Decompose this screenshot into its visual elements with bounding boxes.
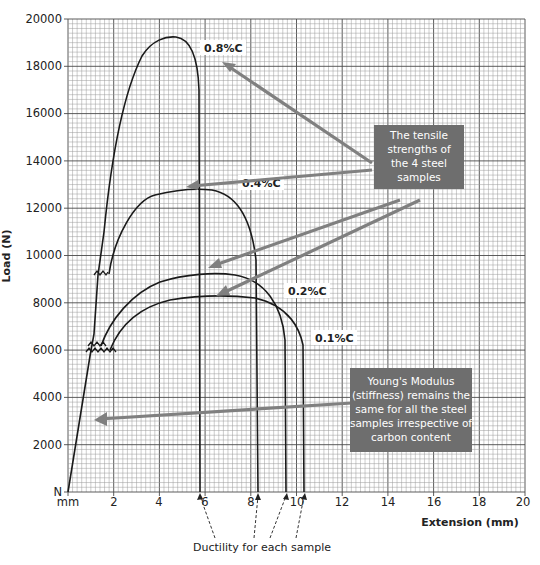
- arrowhead-icon: [283, 493, 289, 500]
- tensile-note-line-2: strengths of: [387, 143, 450, 155]
- tensile-note-line-4: samples: [397, 171, 441, 183]
- x-tick-16: 16: [427, 495, 442, 509]
- youngs-modulus-annotation: Young's Modulus (stiffness) remains the …: [94, 368, 472, 452]
- y-tick-12000: 12000: [25, 201, 62, 215]
- tensile-note-line-1: The tensile: [389, 129, 448, 141]
- y-axis-title: Load (N): [0, 230, 13, 283]
- y-tick-20000: 20000: [25, 12, 62, 26]
- x-tick-4: 4: [155, 495, 162, 509]
- y-tick-8000: 8000: [33, 296, 62, 310]
- modulus-note-line-4: samples irrespective of: [350, 417, 472, 429]
- modulus-arrow: [100, 403, 352, 419]
- label-0-8-percent-carbon: 0.8%C: [204, 42, 243, 55]
- arrowhead-icon: [186, 180, 198, 190]
- curve-0-1-percent-carbon: [110, 296, 304, 492]
- label-0-2-percent-carbon: 0.2%C: [288, 285, 327, 298]
- y-tick-18000: 18000: [25, 59, 62, 73]
- x-origin-unit: mm: [57, 495, 79, 509]
- modulus-note-line-1: Young's Modulus: [367, 375, 455, 387]
- label-0-1-percent-carbon: 0.1%C: [315, 332, 354, 345]
- tensile-note-line-3: the 4 steel: [391, 157, 447, 169]
- y-tick-6000: 6000: [33, 343, 62, 357]
- y-tick-10000: 10000: [25, 248, 62, 262]
- x-tick-6: 6: [201, 495, 208, 509]
- y-tick-16000: 16000: [25, 106, 62, 120]
- x-tick-18: 18: [472, 495, 487, 509]
- modulus-note-line-3: same for all the steel: [355, 403, 466, 415]
- x-tick-14: 14: [381, 495, 396, 509]
- arrowhead-icon: [94, 412, 107, 426]
- tensile-test-chart: 20000 18000 16000 14000 12000 10000 8000…: [0, 0, 540, 565]
- elastic-line: [68, 232, 104, 492]
- x-tick-2: 2: [110, 495, 117, 509]
- modulus-note-line-5: carbon content: [371, 431, 451, 443]
- arrowhead-icon: [208, 258, 222, 268]
- x-tick-12: 12: [335, 495, 350, 509]
- y-axis-tick-labels: 20000 18000 16000 14000 12000 10000 8000…: [25, 12, 62, 499]
- arrowhead-icon: [255, 493, 261, 500]
- x-tick-8: 8: [247, 495, 254, 509]
- x-axis-title: Extension (mm): [421, 516, 519, 529]
- y-tick-2000: 2000: [33, 438, 62, 452]
- x-axis-tick-labels: mm 2 4 6 8 10 12 14 16 18 20: [57, 495, 531, 509]
- ductility-caption: Ductility for each sample: [193, 541, 331, 554]
- ductility-annotation: Ductility for each sample: [193, 493, 331, 554]
- y-tick-4000: 4000: [33, 390, 62, 404]
- y-tick-14000: 14000: [25, 154, 62, 168]
- modulus-note-line-2: (stiffness) remains the: [352, 389, 470, 401]
- x-tick-20: 20: [516, 495, 531, 509]
